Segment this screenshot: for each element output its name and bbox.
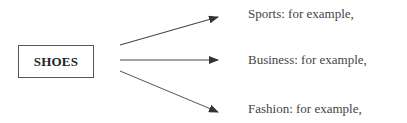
branch-label-sports: Sports: for example, [248, 6, 354, 22]
branch-label-fashion: Fashion: for example, [248, 101, 362, 117]
arrow-sports [120, 17, 218, 45]
arrow-fashion [120, 71, 218, 112]
branch-label-business: Business: for example, [248, 52, 367, 68]
